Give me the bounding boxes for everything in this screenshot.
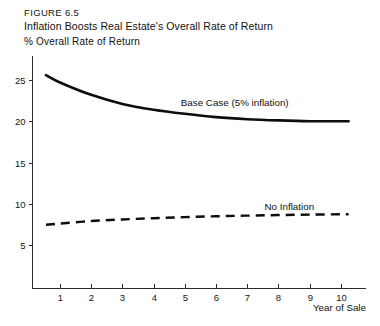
x-axis-caption: Year of Sale	[313, 302, 367, 313]
series-annotation-group: Base Case (5% inflation)No Inflation	[181, 97, 314, 212]
series-annotation-2: No Inflation	[265, 201, 315, 212]
series-annotation-1: Base Case (5% inflation)	[181, 97, 289, 108]
x-tick-label: 8	[276, 292, 281, 303]
y-tick-label: 15	[15, 158, 26, 169]
x-tick-label: 10	[336, 292, 347, 303]
x-tick-label: 7	[245, 292, 250, 303]
x-tick-label: 5	[183, 292, 188, 303]
x-tick-label: 1	[58, 292, 63, 303]
x-tick-label: 9	[308, 292, 313, 303]
y-tick-label: 20	[15, 116, 26, 127]
y-tick-label: 5	[20, 240, 25, 251]
x-tick-label: 4	[152, 292, 157, 303]
x-tick-label: 6	[214, 292, 219, 303]
y-tick-label: 25	[15, 75, 26, 86]
y-tick-group: 510152025	[15, 75, 33, 251]
chart-plot-area: 510152025 12345678910 Base Case (5% infl…	[0, 0, 380, 326]
x-tick-label: 3	[120, 292, 125, 303]
x-tick-label: 2	[89, 292, 94, 303]
y-tick-label: 10	[15, 199, 26, 210]
figure-container: FIGURE 6.5 Inflation Boosts Real Estate'…	[0, 0, 380, 326]
x-tick-group: 12345678910	[58, 284, 347, 303]
series-line-2	[46, 214, 349, 225]
